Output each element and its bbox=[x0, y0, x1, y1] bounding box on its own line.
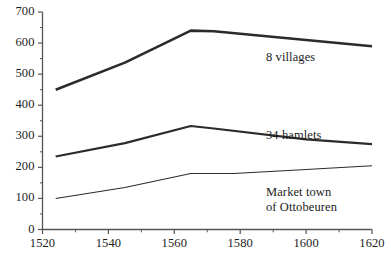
x-tick-label: 1620 bbox=[349, 236, 391, 251]
y-tick-label: 200 bbox=[1, 159, 35, 174]
x-tick-label: 1600 bbox=[283, 236, 329, 251]
series-line-1 bbox=[56, 126, 372, 156]
x-tick-label: 1540 bbox=[85, 236, 131, 251]
x-tick-label: 1560 bbox=[151, 236, 197, 251]
chart-container: 0100200300400500600700 15201540156015801… bbox=[0, 0, 391, 265]
series-line-0 bbox=[56, 31, 372, 90]
y-tick-label: 600 bbox=[1, 35, 35, 50]
series-label: of Ottobeuren bbox=[266, 200, 337, 215]
y-tick-label: 400 bbox=[1, 97, 35, 112]
y-tick-label: 300 bbox=[1, 128, 35, 143]
y-tick-label: 100 bbox=[1, 190, 35, 205]
line-chart-plot bbox=[0, 0, 391, 265]
x-tick-label: 1520 bbox=[20, 236, 66, 251]
series-label: Market town bbox=[266, 185, 331, 200]
y-tick-label: 0 bbox=[1, 222, 35, 237]
series-label: 8 villages bbox=[266, 50, 315, 65]
y-tick-label: 500 bbox=[1, 66, 35, 81]
x-tick-label: 1580 bbox=[217, 236, 263, 251]
y-tick-label: 700 bbox=[1, 4, 35, 19]
series-label: 34 hamlets bbox=[266, 128, 322, 143]
